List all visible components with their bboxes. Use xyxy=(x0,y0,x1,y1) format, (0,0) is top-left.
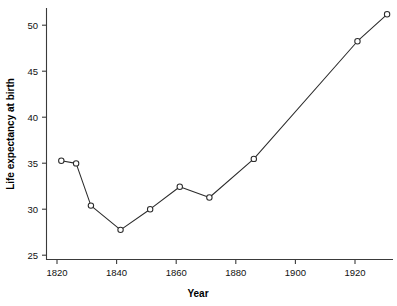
data-point-marker xyxy=(88,203,93,208)
data-point-marker xyxy=(147,207,152,212)
data-point-marker xyxy=(384,12,389,17)
data-point-marker xyxy=(118,227,123,232)
data-point-marker xyxy=(251,156,256,161)
chart-figure: 50 45 40 35 30 25 1820 1840 1860 1880 19… xyxy=(0,0,397,306)
chart-background xyxy=(0,0,397,306)
y-tick-label: 30 xyxy=(27,204,38,215)
x-tick-label: 1860 xyxy=(166,267,187,278)
data-point-marker xyxy=(59,158,64,163)
y-tick-label: 25 xyxy=(27,250,38,261)
data-point-marker xyxy=(177,184,182,189)
data-point-marker xyxy=(73,161,78,166)
y-axis-title: Life expectancy at birth xyxy=(5,78,16,190)
data-point-marker xyxy=(207,195,212,200)
x-tick-label: 1840 xyxy=(106,267,127,278)
x-tick-label: 1900 xyxy=(285,267,306,278)
data-point-marker xyxy=(355,39,360,44)
x-tick-label: 1920 xyxy=(344,267,365,278)
y-tick-label: 45 xyxy=(27,66,38,77)
y-tick-label: 40 xyxy=(27,112,38,123)
y-tick-label: 35 xyxy=(27,158,38,169)
x-axis-title: Year xyxy=(187,288,208,299)
line-chart-canvas: 50 45 40 35 30 25 1820 1840 1860 1880 19… xyxy=(0,0,397,306)
x-tick-label: 1880 xyxy=(225,267,246,278)
x-tick-label: 1820 xyxy=(46,267,67,278)
y-tick-label: 50 xyxy=(27,20,38,31)
